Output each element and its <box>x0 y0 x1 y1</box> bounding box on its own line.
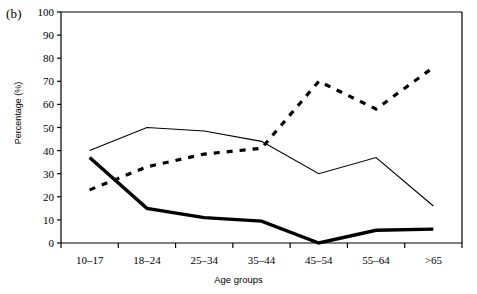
plot-axes <box>61 12 462 243</box>
series-thin-solid-series <box>90 128 434 207</box>
tick-marks <box>57 12 462 248</box>
data-series-group <box>90 67 434 243</box>
chart-figure: (b) Percentage (%) Age groups 0102030405… <box>0 0 477 294</box>
plot-canvas <box>0 0 477 294</box>
series-dashed-series <box>90 67 434 189</box>
